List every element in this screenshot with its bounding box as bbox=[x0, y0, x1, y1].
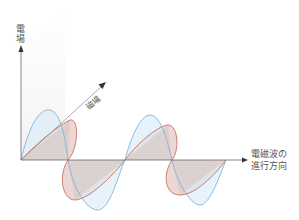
electric-field-label: 電場 bbox=[14, 24, 25, 44]
em-wave-diagram bbox=[0, 0, 299, 220]
propagation-arrowhead-icon bbox=[242, 158, 248, 163]
propagation-label-line2: 進行方向 bbox=[251, 161, 287, 172]
propagation-label-line1: 電磁波の bbox=[251, 149, 287, 160]
